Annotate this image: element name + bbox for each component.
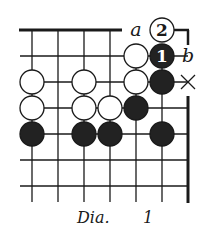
black-stone [98,122,122,146]
black-stone [150,70,174,94]
stone-move-number: 2 [156,20,168,40]
white-stone [20,96,44,120]
white-stone [72,70,96,94]
go-board-diagram: 12 ab [0,0,205,206]
black-stone [124,96,148,120]
black-stone [20,122,44,146]
diagram-caption: Dia. 1 [0,206,205,230]
stone-move-number: 1 [156,46,168,66]
white-stone [124,70,148,94]
point-label-b: b [182,44,194,66]
white-stone [20,70,44,94]
white-stone [72,96,96,120]
black-stone [150,122,174,146]
black-stone [72,122,96,146]
white-stone [98,96,122,120]
caption-number: 1 [143,208,153,227]
point-label-a: a [130,18,141,40]
caption-prefix: Dia. [77,208,110,227]
white-stone [124,44,148,68]
